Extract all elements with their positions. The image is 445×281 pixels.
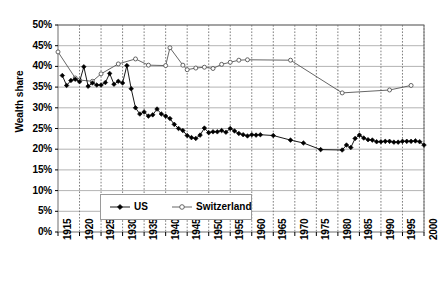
data-point-us xyxy=(301,141,306,146)
x-tick-label: 2000 xyxy=(428,219,439,240)
data-point-us xyxy=(103,80,108,85)
data-point-switzerland xyxy=(202,65,206,69)
data-point-us xyxy=(245,134,250,139)
data-point-us xyxy=(370,138,375,143)
data-point-switzerland xyxy=(168,46,172,50)
data-point-us xyxy=(409,139,414,144)
data-point-us xyxy=(241,132,246,137)
data-point-us xyxy=(215,130,220,135)
data-point-us xyxy=(120,81,125,86)
data-point-switzerland xyxy=(245,58,249,62)
x-tick-label: 1930 xyxy=(127,219,138,240)
y-tick-label: 45% xyxy=(14,40,52,51)
x-tick-label: 1955 xyxy=(234,219,245,240)
y-tick-label: 30% xyxy=(14,102,52,113)
data-point-us xyxy=(249,132,254,137)
data-point-switzerland xyxy=(116,62,120,66)
data-point-us xyxy=(189,135,194,140)
data-point-switzerland xyxy=(211,66,215,70)
y-tick-label: 50% xyxy=(14,19,52,30)
data-point-us xyxy=(387,139,392,144)
x-tick-label: 1945 xyxy=(191,219,202,240)
x-tick-label: 1950 xyxy=(213,219,224,240)
data-point-switzerland xyxy=(388,88,392,92)
data-point-switzerland xyxy=(185,68,189,72)
data-point-switzerland xyxy=(99,72,103,76)
x-tick-label: 1985 xyxy=(363,219,374,240)
y-tick-label: 35% xyxy=(14,81,52,92)
y-tick-label: 15% xyxy=(14,164,52,175)
data-point-us xyxy=(125,63,130,68)
data-point-us xyxy=(232,129,237,134)
x-tick-label: 1965 xyxy=(277,219,288,240)
y-tick-label: 25% xyxy=(14,123,52,134)
data-point-us xyxy=(107,71,112,76)
x-tick-label: 1990 xyxy=(385,219,396,240)
data-point-us xyxy=(237,131,242,136)
data-point-us xyxy=(318,147,323,152)
data-point-us xyxy=(366,137,371,142)
x-tick-label: 1975 xyxy=(320,219,331,240)
data-point-switzerland xyxy=(146,63,150,67)
legend-label-us: US xyxy=(134,201,148,212)
data-point-us xyxy=(271,133,276,138)
legend-marker-us xyxy=(117,204,122,209)
data-point-switzerland xyxy=(409,83,413,87)
legend-marker-switzerland xyxy=(180,205,185,210)
data-point-us xyxy=(396,140,401,145)
data-point-switzerland xyxy=(340,91,344,95)
y-tick-label: 40% xyxy=(14,60,52,71)
x-tick-label: 1960 xyxy=(256,219,267,240)
x-tick-label: 1995 xyxy=(406,219,417,240)
legend-label-switzerland: Switzerland xyxy=(196,201,252,212)
data-point-us xyxy=(99,83,104,88)
data-point-us xyxy=(82,65,87,70)
y-tick-label: 10% xyxy=(14,185,52,196)
data-point-switzerland xyxy=(289,58,293,62)
y-tick-label: 5% xyxy=(14,205,52,216)
data-point-us xyxy=(219,128,224,133)
series-line-switzerland xyxy=(58,48,411,93)
data-point-us xyxy=(258,132,263,137)
y-tick-label: 0% xyxy=(14,226,52,237)
data-point-switzerland xyxy=(134,57,138,61)
data-point-us xyxy=(379,139,384,144)
data-point-switzerland xyxy=(237,58,241,62)
x-tick-label: 1920 xyxy=(84,219,95,240)
data-point-switzerland xyxy=(164,64,168,68)
data-point-us xyxy=(163,114,168,119)
x-tick-label: 1915 xyxy=(62,219,73,240)
data-point-switzerland xyxy=(228,60,232,64)
x-tick-label: 1980 xyxy=(342,219,353,240)
y-tick-label: 20% xyxy=(14,143,52,154)
data-point-switzerland xyxy=(56,50,60,54)
data-point-switzerland xyxy=(181,63,185,67)
data-point-us xyxy=(60,73,65,78)
x-tick-label: 1925 xyxy=(105,219,116,240)
wealth-share-chart: Wealth share 0%5%10%15%20%25%30%35%40%45… xyxy=(0,0,445,281)
data-point-us xyxy=(288,138,293,143)
x-tick-label: 1935 xyxy=(148,219,159,240)
x-tick-label: 1940 xyxy=(170,219,181,240)
data-point-switzerland xyxy=(220,62,224,66)
data-point-us xyxy=(413,139,418,144)
data-point-us xyxy=(254,133,259,138)
x-tick-label: 1970 xyxy=(299,219,310,240)
data-point-switzerland xyxy=(194,66,198,70)
